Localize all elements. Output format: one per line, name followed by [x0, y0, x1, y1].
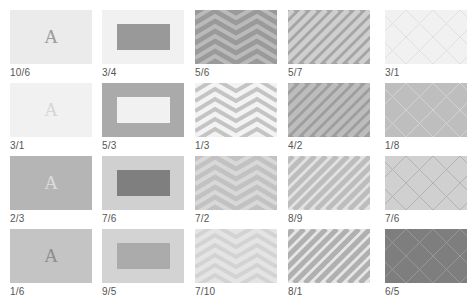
swatch-cell[interactable]: 3/4: [102, 10, 184, 78]
swatch-letter[interactable]: A: [10, 83, 92, 137]
swatch-ratio-label: 3/1: [385, 67, 467, 78]
swatch-chevron[interactable]: [195, 83, 277, 137]
swatch-ratio-label: 2/3: [10, 213, 92, 224]
swatch-ratio-label: 3/4: [102, 67, 184, 78]
swatch-cell[interactable]: A3/1: [10, 83, 92, 151]
sample-letter: A: [10, 10, 92, 64]
swatch-cell[interactable]: A1/6: [10, 229, 92, 297]
swatch-cell[interactable]: 8/9: [288, 156, 370, 224]
swatch-ratio-label: 10/6: [10, 67, 92, 78]
lattice-pattern: [385, 156, 467, 210]
swatch-cell[interactable]: 8/1: [288, 229, 370, 297]
swatch-cell[interactable]: 7/6: [385, 156, 467, 224]
swatch-ratio-label: 5/6: [195, 67, 277, 78]
swatch-letter[interactable]: A: [10, 156, 92, 210]
swatch-chevron[interactable]: [195, 156, 277, 210]
swatch-cell[interactable]: 5/6: [195, 10, 277, 78]
swatch-diagonal[interactable]: [288, 83, 370, 137]
swatch-cell[interactable]: 9/5: [102, 229, 184, 297]
swatch-ratio-label: 8/9: [288, 213, 370, 224]
chevron-pattern: [195, 83, 277, 137]
swatch-diagonal[interactable]: [288, 156, 370, 210]
swatch-cell[interactable]: 5/7: [288, 10, 370, 78]
swatch-rect[interactable]: [102, 156, 184, 210]
swatch-ratio-label: 1/8: [385, 140, 467, 151]
swatch-cell[interactable]: A2/3: [10, 156, 92, 224]
sample-letter: A: [10, 156, 92, 210]
swatch-chevron[interactable]: [195, 229, 277, 283]
chevron-pattern: [195, 156, 277, 210]
swatch-ratio-label: 7/6: [102, 213, 184, 224]
swatch-cell[interactable]: 6/5: [385, 229, 467, 297]
swatch-letter[interactable]: A: [10, 229, 92, 283]
swatch-rect[interactable]: [102, 10, 184, 64]
swatch-ratio-label: 7/6: [385, 213, 467, 224]
swatch-rect[interactable]: [102, 229, 184, 283]
sample-rectangle: [117, 24, 170, 50]
swatch-ratio-label: 4/2: [288, 140, 370, 151]
sample-rectangle: [117, 243, 170, 269]
swatch-chevron[interactable]: [195, 10, 277, 64]
swatch-cell[interactable]: 7/6: [102, 156, 184, 224]
swatch-ratio-label: 7/2: [195, 213, 277, 224]
sample-letter: A: [10, 83, 92, 137]
swatch-cell[interactable]: A10/6: [10, 10, 92, 78]
swatch-cell[interactable]: 7/2: [195, 156, 277, 224]
swatch-cell[interactable]: 7/10: [195, 229, 277, 297]
diagonal-stripe-pattern: [288, 83, 370, 137]
lattice-pattern: [385, 229, 467, 283]
swatch-cell[interactable]: 1/3: [195, 83, 277, 151]
swatch-diagonal[interactable]: [288, 229, 370, 283]
swatch-ratio-label: 6/5: [385, 286, 467, 297]
swatch-diagonal[interactable]: [288, 10, 370, 64]
swatch-rect[interactable]: [102, 83, 184, 137]
swatch-ratio-label: 5/3: [102, 140, 184, 151]
swatch-ratio-label: 1/6: [10, 286, 92, 297]
swatch-cell[interactable]: 3/1: [385, 10, 467, 78]
swatch-ratio-label: 9/5: [102, 286, 184, 297]
diagonal-stripe-pattern: [288, 10, 370, 64]
swatch-ratio-label: 3/1: [10, 140, 92, 151]
diagonal-stripe-pattern: [288, 156, 370, 210]
swatch-lattice[interactable]: [385, 10, 467, 64]
lattice-pattern: [385, 10, 467, 64]
swatch-ratio-label: 1/3: [195, 140, 277, 151]
swatch-ratio-label: 5/7: [288, 67, 370, 78]
sample-letter: A: [10, 229, 92, 283]
swatch-lattice[interactable]: [385, 229, 467, 283]
swatch-ratio-label: 7/10: [195, 286, 277, 297]
swatch-cell[interactable]: 1/8: [385, 83, 467, 151]
swatch-lattice[interactable]: [385, 156, 467, 210]
sample-rectangle: [117, 170, 170, 196]
swatch-letter[interactable]: A: [10, 10, 92, 64]
swatch-lattice[interactable]: [385, 83, 467, 137]
swatch-cell[interactable]: 5/3: [102, 83, 184, 151]
chevron-pattern: [195, 229, 277, 283]
diagonal-stripe-pattern: [288, 229, 370, 283]
sample-rectangle: [117, 97, 170, 123]
chevron-pattern: [195, 10, 277, 64]
swatch-ratio-label: 8/1: [288, 286, 370, 297]
lattice-pattern: [385, 83, 467, 137]
swatch-cell[interactable]: 4/2: [288, 83, 370, 151]
